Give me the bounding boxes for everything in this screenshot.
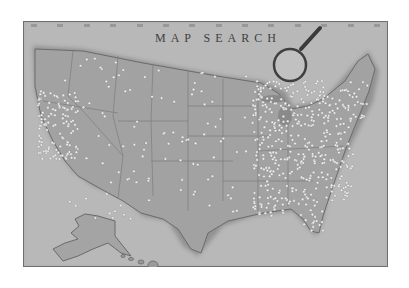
tick-mark — [216, 24, 222, 27]
tick-mark — [137, 24, 143, 27]
tick-mark — [268, 24, 274, 27]
tick-mark — [110, 24, 116, 27]
us-map-illustration — [23, 21, 388, 267]
tick-mark — [348, 24, 354, 27]
tick-mark — [295, 24, 301, 27]
tick-mark — [374, 24, 380, 27]
tick-mark — [84, 24, 90, 27]
tick-mark — [31, 24, 37, 27]
tick-mark — [242, 24, 248, 27]
tick-mark — [189, 24, 195, 27]
top-tick-marks — [31, 24, 380, 30]
tick-mark — [321, 24, 327, 27]
map-title: MAP SEARCH — [143, 31, 293, 46]
map-frame: MAP SEARCH — [23, 21, 388, 267]
tick-mark — [163, 24, 169, 27]
tick-mark — [57, 24, 63, 27]
